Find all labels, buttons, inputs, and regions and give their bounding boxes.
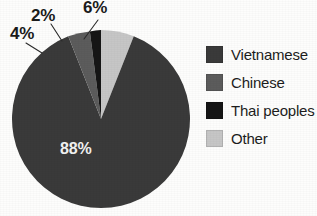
pie-chart-figure: 6% 2% 4% 88% Vietnamese Chinese Thai peo… <box>0 0 317 216</box>
legend-item-chinese: Chinese <box>206 68 317 96</box>
legend-label: Vietnamese <box>231 46 308 63</box>
legend-label: Chinese <box>231 74 285 91</box>
pie-slices <box>12 30 190 208</box>
leader-line-chinese <box>26 43 42 53</box>
legend-swatch-icon <box>206 102 223 119</box>
chart-legend: Vietnamese Chinese Thai peoples Other <box>206 40 317 152</box>
legend-swatch-icon <box>206 74 223 91</box>
slice-label-vietnamese: 88% <box>60 140 91 158</box>
legend-item-vietnamese: Vietnamese <box>206 40 317 68</box>
callout-label-other: 6% <box>83 0 107 18</box>
legend-item-other: Other <box>206 124 317 152</box>
legend-item-thai-peoples: Thai peoples <box>206 96 317 124</box>
legend-label: Other <box>231 130 268 147</box>
legend-swatch-icon <box>206 130 223 147</box>
callout-label-chinese: 4% <box>10 24 34 44</box>
callout-label-thai-peoples: 2% <box>31 6 55 26</box>
legend-swatch-icon <box>206 46 223 63</box>
leader-line-thai <box>51 24 62 41</box>
legend-label: Thai peoples <box>231 102 315 119</box>
